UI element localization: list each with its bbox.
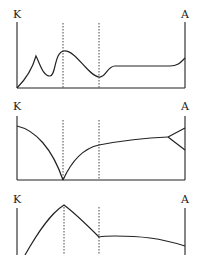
panel-3-right-label: A bbox=[180, 193, 190, 206]
panel-2-left-arc bbox=[17, 126, 63, 180]
panel-2-left-label: K bbox=[13, 100, 22, 113]
panel-2: K A bbox=[13, 100, 190, 180]
panel-1-left-label: K bbox=[13, 8, 22, 21]
panel-3: K A bbox=[13, 193, 190, 255]
panel-2-right-curve bbox=[63, 137, 168, 180]
panel-2-branch bbox=[168, 128, 185, 150]
diagram-canvas: K A K A K A bbox=[0, 0, 200, 255]
panel-1: K A bbox=[13, 8, 190, 88]
panel-1-right-label: A bbox=[180, 8, 190, 21]
panel-3-curve bbox=[25, 205, 185, 255]
panel-1-curve bbox=[17, 51, 185, 88]
panel-3-left-label: K bbox=[13, 193, 22, 206]
panel-2-right-label: A bbox=[180, 100, 190, 113]
